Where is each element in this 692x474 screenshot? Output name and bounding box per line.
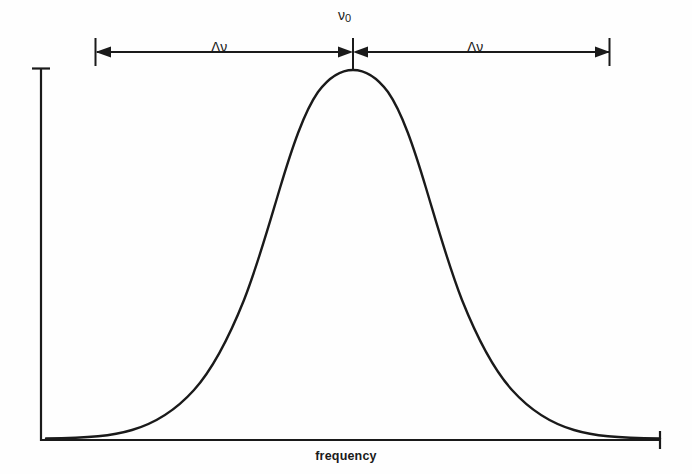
lineshape-curve [46, 70, 660, 439]
linewidth-left-arrowhead-right [338, 47, 353, 58]
center-frequency-label: ν0 [338, 8, 351, 24]
linewidth-right-arrowhead-left [353, 47, 368, 58]
center-frequency-symbol: ν [338, 7, 345, 23]
lineshape-figure: ν0 Δν Δν frequency rf intensity [0, 0, 692, 474]
center-frequency-subscript: 0 [345, 12, 351, 24]
linewidth-left-arrowhead-left [96, 47, 112, 58]
linewidth-right-arrowhead-right [595, 47, 610, 58]
lineshape-plot [0, 0, 692, 474]
linewidth-left-label: Δν [211, 40, 227, 54]
x-axis-label: frequency [0, 450, 692, 463]
linewidth-right-label: Δν [467, 40, 483, 54]
